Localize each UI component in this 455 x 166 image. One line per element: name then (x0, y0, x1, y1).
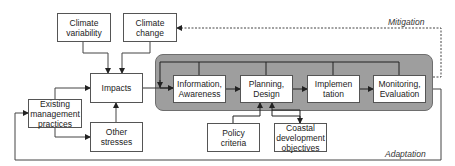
monitoring-evaluation-node: Monitoring, Evaluation (373, 75, 426, 103)
planning-design-node: Planning, Design (240, 75, 293, 103)
information-awareness-node: Information, Awareness (173, 75, 226, 103)
coastal-development-objectives-node: Coastal development objectives (274, 123, 327, 152)
mitigation-label: Mitigation (388, 17, 424, 27)
impacts-node: Impacts (90, 73, 143, 103)
other-stresses-node: Other stresses (90, 122, 143, 152)
existing-management-node: Existing management practices (28, 99, 82, 128)
policy-criteria-node: Policy criteria (207, 123, 260, 152)
climate-variability-node: Climate variability (57, 13, 111, 42)
climate-change-node: Climate change (123, 13, 177, 42)
implementation-node: Implemen tation (307, 75, 360, 103)
adaptation-label: Adaptation (385, 149, 426, 159)
